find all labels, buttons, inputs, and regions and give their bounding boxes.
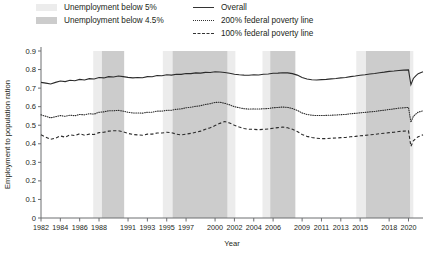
legend-label-overall: Overall <box>221 3 247 12</box>
x-tick-label: 2015 <box>352 223 368 232</box>
legend-swatch-below45 <box>36 17 57 24</box>
y-tick-label: 0.1 <box>25 195 36 204</box>
x-tick-label: 1988 <box>91 223 107 232</box>
shaded-band <box>228 51 236 218</box>
legend-line-200fpl-icon <box>193 17 214 24</box>
x-tick-label: 1991 <box>120 223 136 232</box>
y-tick-label: 0.7 <box>25 84 36 93</box>
y-axis-ticks-group: 00.10.20.30.40.50.60.70.80.9 <box>25 47 41 223</box>
recession-bands-group <box>93 51 413 218</box>
x-tick-label: 2006 <box>265 223 281 232</box>
x-tick-label: 2018 <box>381 223 397 232</box>
x-axis-title: Year <box>224 239 240 248</box>
x-tick-label: 1986 <box>72 223 88 232</box>
y-axis-title: Employment to population ration <box>3 80 12 189</box>
legend-label-below5: Unemployment below 5% <box>64 3 157 12</box>
legend-band-below5: Unemployment below 5% <box>36 2 164 13</box>
legend-band-below45: Unemployment below 4.5% <box>36 15 164 26</box>
x-tick-label: 1982 <box>33 223 49 232</box>
y-tick-label: 0.5 <box>25 121 36 130</box>
y-tick-label: 0.8 <box>25 65 36 74</box>
y-tick-label: 0.6 <box>25 102 36 111</box>
y-tick-label: 0.3 <box>25 158 36 167</box>
chart-legend: Unemployment below 5% Unemployment below… <box>0 0 426 38</box>
legend-column-bands: Unemployment below 5% Unemployment below… <box>36 2 164 28</box>
x-tick-label: 2011 <box>314 223 329 232</box>
x-tick-label: 2013 <box>333 223 349 232</box>
chart-figure: Unemployment below 5% Unemployment below… <box>0 0 426 253</box>
legend-swatch-below5 <box>36 4 57 11</box>
x-tick-label: 1984 <box>52 223 68 232</box>
legend-series-overall: Overall <box>193 2 313 13</box>
shaded-band <box>410 51 413 218</box>
line-chart: 00.10.20.30.40.50.60.70.80.9 19821984198… <box>0 38 426 253</box>
legend-label-100fpl: 100% federal poverty line <box>221 29 313 38</box>
x-tick-label: 1995 <box>159 223 175 232</box>
x-tick-label: 2009 <box>294 223 310 232</box>
x-tick-label: 2004 <box>246 223 262 232</box>
y-tick-label: 0 <box>32 214 36 223</box>
legend-column-series: Overall 200% federal poverty line 100% f… <box>193 2 313 41</box>
shaded-band <box>262 51 270 218</box>
x-tick-label: 1993 <box>139 223 155 232</box>
y-tick-label: 0.2 <box>25 176 36 185</box>
x-tick-label: 2000 <box>207 223 223 232</box>
legend-label-200fpl: 200% federal poverty line <box>221 16 313 25</box>
x-tick-label: 1997 <box>178 223 194 232</box>
legend-label-below45: Unemployment below 4.5% <box>64 16 164 25</box>
legend-series-200fpl: 200% federal poverty line <box>193 15 313 26</box>
x-tick-label: 2002 <box>226 223 242 232</box>
legend-line-overall-icon <box>193 4 214 11</box>
shaded-band <box>173 51 228 218</box>
plot-area: 00.10.20.30.40.50.60.70.80.9 19821984198… <box>0 38 426 253</box>
y-tick-label: 0.4 <box>25 139 36 148</box>
y-tick-label: 0.9 <box>25 47 36 56</box>
shaded-band <box>270 51 295 218</box>
shaded-band <box>163 51 173 218</box>
x-tick-label: 2020 <box>400 223 416 232</box>
legend-line-100fpl-icon <box>193 30 214 37</box>
x-axis-ticks-group: 1982198419861988199119931995199720002002… <box>33 218 416 232</box>
